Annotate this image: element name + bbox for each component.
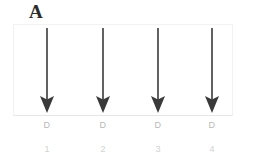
lane-number-2: 2	[91, 144, 115, 154]
arrow-group-1	[35, 26, 59, 114]
down-arrow-icon	[200, 26, 224, 114]
arrow-group-3	[146, 26, 170, 114]
down-arrow-icon	[91, 26, 115, 114]
arrow-group-2	[91, 26, 115, 114]
down-arrow-icon	[35, 26, 59, 114]
lane-label-d-4: D	[200, 120, 224, 130]
lane-label-d-2: D	[91, 120, 115, 130]
lane-label-d-1: D	[35, 120, 59, 130]
arrow-group-4	[200, 26, 224, 114]
lane-number-4: 4	[200, 144, 224, 154]
figure-panel: A D 1 D 2 D 3 D 4	[0, 0, 253, 166]
lane-number-1: 1	[35, 144, 59, 154]
lane-label-d-3: D	[146, 120, 170, 130]
panel-letter-a: A	[29, 1, 43, 23]
down-arrow-icon	[146, 26, 170, 114]
lane-number-3: 3	[146, 144, 170, 154]
